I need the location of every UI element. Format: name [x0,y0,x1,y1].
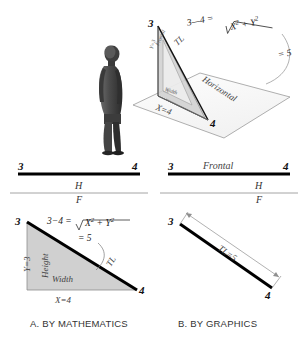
panel-b-point-4: 4 [265,289,271,301]
pictorial-point-4: 4 [210,117,216,129]
panel-b-point-3: 3 [168,215,174,227]
reference-left-f: F [76,194,82,205]
top-view-point-3: 3 [18,160,24,172]
panel-a-radical: X2 + Y2 [85,216,114,228]
front-view-line-right [160,174,298,193]
technical-figure: 3 4 3—4 = X2 + Y2 = 5 TL Frontal Horizon… [0,0,308,341]
panel-a-y-label: Y=3 [22,256,32,272]
reference-right-f: F [256,194,262,205]
panel-a-formula-lead: 3−4 = [47,216,72,226]
panel-a-point-3: 3 [15,215,21,227]
top-view-point-4: 4 [132,160,138,172]
front-view-point-4: 4 [283,160,289,172]
human-observer-figure [99,46,124,156]
figure-canvas [0,0,308,341]
panel-a-caption: A. BY MATHEMATICS [30,318,128,329]
reference-right-h: H [255,180,262,191]
panel-a-point-4: 4 [139,284,145,296]
panel-a-result: = 5 [78,233,92,243]
panel-a-width-label: Width [52,274,73,284]
front-view-point-3: 3 [168,160,174,172]
pictorial-point-3: 3 [148,17,154,29]
front-view-label: Frontal [203,160,233,171]
reference-left-h: H [75,180,82,191]
panel-a-height-label: Height [40,254,50,279]
panel-a-x-label: X=4 [55,295,71,305]
panel-b-caption: B. BY GRAPHICS [178,318,257,329]
